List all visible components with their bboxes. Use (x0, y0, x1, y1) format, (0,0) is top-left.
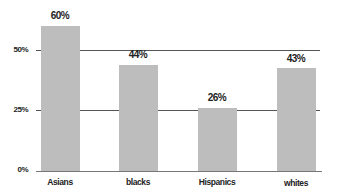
y-tick-label-0: 0% (0, 165, 28, 174)
bar-whites (277, 68, 316, 171)
value-label-blacks: 44% (118, 49, 158, 60)
x-label-blacks: blacks (108, 177, 168, 187)
y-tick-label-25: 25% (0, 105, 28, 114)
x-label-hispanics: Hispanics (187, 177, 247, 187)
bar-asians (41, 26, 80, 171)
bar-chart: 0% 25% 50% 60% 44% 26% 43% Asians blacks… (0, 0, 337, 196)
x-label-whites: whites (266, 178, 326, 188)
x-label-asians: Asians (30, 177, 90, 187)
y-tick-label-50: 50% (0, 45, 28, 54)
value-label-whites: 43% (276, 53, 316, 64)
bar-blacks (119, 65, 158, 171)
x-axis-baseline (36, 171, 322, 172)
value-label-hispanics: 26% (197, 92, 237, 103)
bar-hispanics (198, 108, 237, 171)
value-label-asians: 60% (40, 10, 80, 21)
